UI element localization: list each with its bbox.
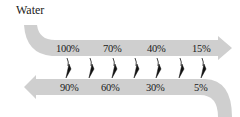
bottom-label-3: 30%	[146, 82, 165, 93]
down-arrow-icon	[66, 58, 71, 78]
top-label-1: 100%	[56, 43, 80, 54]
top-label-4: 15%	[192, 43, 211, 54]
down-arrow-icon	[112, 58, 117, 78]
down-arrow-icon	[201, 58, 206, 78]
top-label-2: 70%	[103, 43, 122, 54]
down-arrow-icon	[89, 58, 94, 78]
bottom-label-4: 5%	[194, 82, 208, 93]
bottom-label-1: 90%	[60, 82, 79, 93]
down-arrow-icon	[179, 58, 184, 78]
countercurrent-diagram: Water 100% 70% 40% 15%	[0, 0, 240, 117]
diagram-title: Water	[16, 3, 44, 17]
bottom-label-2: 60%	[101, 82, 120, 93]
top-label-3: 40%	[147, 43, 166, 54]
down-arrow-icon	[134, 58, 139, 78]
down-arrow-icon	[156, 58, 161, 78]
transfer-arrows	[66, 58, 206, 78]
